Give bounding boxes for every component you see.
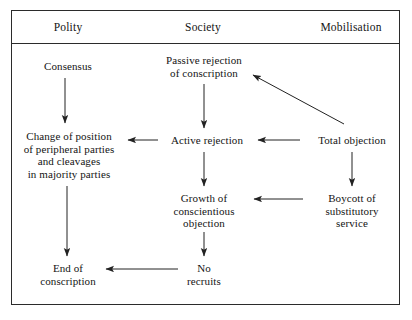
node-consensus: Consensus bbox=[18, 60, 118, 73]
header-divider bbox=[11, 43, 400, 44]
column-heading-polity: Polity bbox=[18, 21, 118, 34]
node-no-recruits: Norecruits bbox=[160, 262, 248, 287]
column-heading-society: Society bbox=[153, 21, 253, 34]
flow-diagram: Polity Society Mobilisation bbox=[0, 0, 412, 320]
column-heading-mobilisation: Mobilisation bbox=[298, 21, 404, 34]
node-growth-of-conscientious-objection: Growth ofconscientiousobjection bbox=[155, 192, 253, 230]
node-passive-rejection-of-conscription: Passive rejectionof conscription bbox=[148, 54, 260, 79]
node-total-objection: Total objection bbox=[300, 134, 404, 147]
node-boycott-of-substitutory-service: Boycott ofsubstitutoryservice bbox=[303, 192, 401, 230]
node-change-of-position: Change of positionof peripheral partiesa… bbox=[8, 130, 130, 180]
node-active-rejection: Active rejection bbox=[155, 134, 259, 147]
node-end-of-conscription: End ofconscription bbox=[18, 262, 118, 287]
